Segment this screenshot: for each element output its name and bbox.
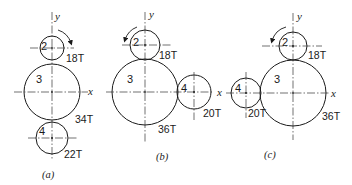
x-axis-label: x (87, 85, 93, 97)
gear-2-label: 2 (41, 40, 47, 52)
gear-4-label: 4 (181, 82, 187, 94)
gear-3-label: 3 (36, 73, 42, 85)
panel-caption: (c) (264, 149, 276, 161)
gear-3-center (144, 91, 146, 93)
panel-caption: (a) (42, 169, 55, 181)
panel-c: y 2 18T 3 36T x 4 20T (c) (226, 10, 341, 161)
gear-3-teeth: 34T (75, 113, 94, 125)
y-axis-label: y (296, 10, 302, 22)
y-axis-label: y (54, 10, 60, 22)
gear-2-label: 2 (133, 36, 139, 48)
gear-4-label: 4 (39, 125, 45, 137)
gear-3-label: 3 (274, 73, 280, 85)
gear-4-teeth: 20T (203, 107, 222, 119)
gear-4-center (51, 137, 53, 139)
gear-4-center (193, 91, 195, 93)
x-axis-label: x (216, 86, 222, 98)
gear-2-center (51, 47, 53, 49)
gear-2-teeth: 18T (66, 52, 85, 64)
gear-4-label: 4 (235, 82, 241, 94)
x-axis-label: x (330, 87, 336, 99)
gear-3-label: 3 (127, 73, 133, 85)
gear-2-label: 2 (282, 36, 288, 48)
gear-2-center (292, 45, 294, 47)
gear-4-teeth: 22T (64, 148, 83, 160)
gear-2-center (144, 44, 146, 46)
gear-3-teeth: 36T (158, 123, 177, 135)
gear-diagram: y 2 18T x 3 34T 4 22T (a) y 2 18T (0, 0, 352, 185)
gear-2-teeth: 18T (159, 49, 178, 61)
panel-b: y 2 18T 3 36T x 4 20T (b) (106, 8, 222, 163)
gear-2-teeth: 18T (308, 49, 327, 61)
gear-4-center (245, 92, 247, 94)
gear-3-center (51, 91, 53, 93)
gear-4-teeth: 20T (248, 107, 267, 119)
gear-3-center (292, 92, 294, 94)
panel-a: y 2 18T x 3 34T 4 22T (a) (14, 10, 94, 181)
rotation-arrow-icon (58, 30, 71, 43)
panel-caption: (b) (156, 151, 169, 163)
y-axis-label: y (148, 8, 154, 20)
gear-3-teeth: 36T (322, 110, 341, 122)
